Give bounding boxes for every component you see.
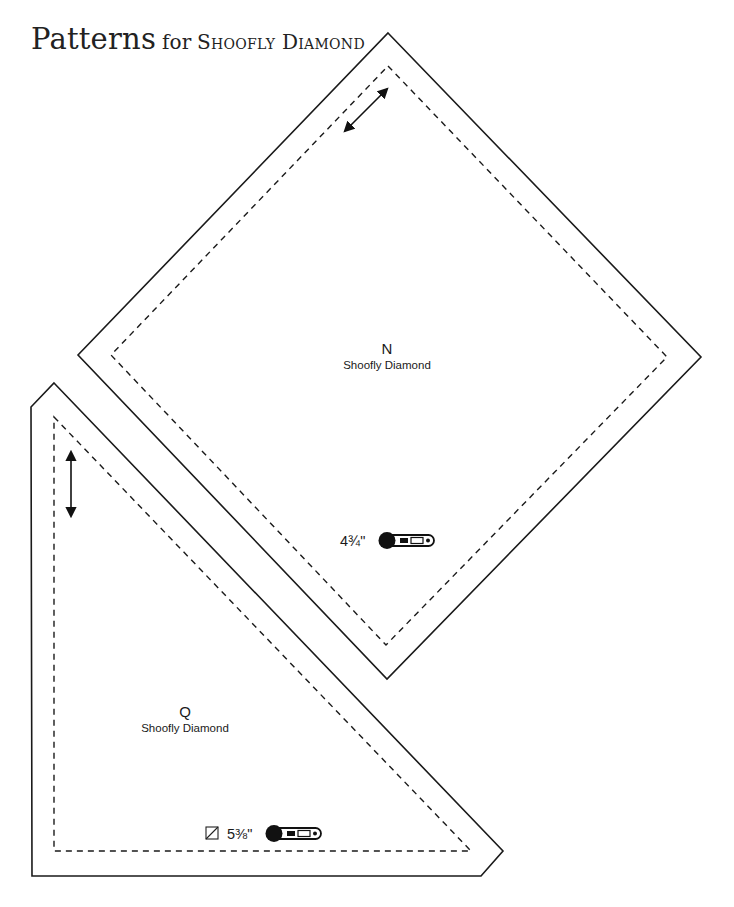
pattern-n-letter: N bbox=[382, 340, 393, 357]
rotary-cutter-icon bbox=[379, 532, 435, 549]
pattern-n-name: Shoofly Diamond bbox=[343, 359, 431, 371]
grain-arrow-icon bbox=[345, 89, 387, 131]
pattern-q-name: Shoofly Diamond bbox=[141, 722, 229, 734]
pattern-q: Q Shoofly Diamond 5⅜" bbox=[31, 383, 503, 876]
pattern-q-seam-line bbox=[54, 417, 471, 851]
pattern-q-cut-line bbox=[31, 383, 503, 876]
rotary-cutter-icon bbox=[266, 825, 322, 842]
pattern-n: N Shoofly Diamond 4¾" bbox=[78, 33, 701, 679]
half-square-triangle-icon bbox=[206, 827, 218, 839]
pattern-q-measurement: 5⅜" bbox=[227, 826, 252, 842]
pattern-n-measurement: 4¾" bbox=[340, 533, 365, 549]
pattern-q-letter: Q bbox=[179, 703, 191, 720]
